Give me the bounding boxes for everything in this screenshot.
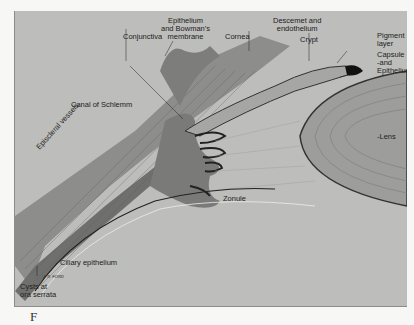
label-lens: -Lens (377, 133, 396, 141)
artist-signature: J. R. FORD (43, 273, 64, 281)
label-pigment-layer: Pigment layer (377, 32, 405, 48)
label-zonule: Zonule (223, 195, 246, 203)
label-crypt: Crypt (300, 36, 318, 44)
label-descemet: Descemet and endothelium (273, 17, 321, 33)
label-conjunctiva: Conjunctiva (123, 33, 162, 41)
label-ciliary-epithelium: Ciliary epithelium (60, 259, 117, 267)
label-cysts-ora-serrata: Cysts at ora serrata (20, 283, 56, 299)
label-capsule-epithelium: Capsule -and Epithelium (377, 51, 407, 75)
figure-caption-fragment: F (30, 309, 51, 325)
label-epithelium-bowman: Epithelium and Bowman's membrane (161, 17, 210, 41)
illustration-plate: Conjunctiva Epithelium and Bowman's memb… (14, 11, 407, 307)
label-cornea: Cornea (225, 33, 250, 41)
